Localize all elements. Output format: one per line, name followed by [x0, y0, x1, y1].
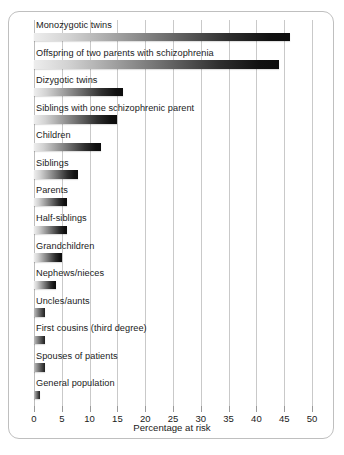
bar	[34, 143, 101, 152]
bar-row: Children	[34, 130, 312, 158]
bar-row: Dizygotic twins	[34, 75, 312, 103]
bar	[34, 170, 78, 179]
bar-category-label: Nephews/nieces	[36, 268, 104, 278]
bar-category-label: Half-siblings	[36, 213, 87, 223]
bar-row: Siblings	[34, 158, 312, 186]
bar-row: Uncles/aunts	[34, 296, 312, 324]
x-tick-mark	[90, 406, 91, 412]
x-tick-mark	[229, 406, 230, 412]
bar-row: General population	[34, 378, 312, 406]
bar-category-label: Parents	[36, 185, 68, 195]
gridline-50	[312, 20, 313, 406]
bar	[34, 363, 45, 372]
bar-category-label: Offspring of two parents with schizophre…	[36, 48, 214, 58]
bar	[34, 60, 279, 69]
bar-category-label: Uncles/aunts	[36, 296, 90, 306]
plot-area: Monozygotic twinsOffspring of two parent…	[34, 20, 312, 406]
bar	[34, 336, 45, 345]
bar-category-label: Dizygotic twins	[36, 75, 98, 85]
x-tick-mark	[145, 406, 146, 412]
bar-category-label: Spouses of patients	[36, 351, 118, 361]
bar-category-label: Grandchildren	[36, 241, 94, 251]
x-tick-mark	[312, 406, 313, 412]
bar	[34, 391, 40, 400]
bar	[34, 198, 67, 207]
bar-category-label: First cousins (third degree)	[36, 323, 147, 333]
bar-row: Spouses of patients	[34, 351, 312, 379]
x-tick-mark	[284, 406, 285, 412]
x-tick-mark	[173, 406, 174, 412]
x-tick-mark	[34, 406, 35, 412]
bar	[34, 253, 62, 262]
bar-row: Parents	[34, 185, 312, 213]
bar-row: Siblings with one schizophrenic parent	[34, 103, 312, 131]
x-tick-mark	[201, 406, 202, 412]
bar-category-label: Monozygotic twins	[36, 20, 112, 30]
bar-series: Monozygotic twinsOffspring of two parent…	[34, 20, 312, 406]
bar	[34, 33, 290, 42]
bar-row: First cousins (third degree)	[34, 323, 312, 351]
bar-row: Grandchildren	[34, 241, 312, 269]
bar-row: Half-siblings	[34, 213, 312, 241]
bar-category-label: Siblings	[36, 158, 69, 168]
bar	[34, 88, 123, 97]
x-tick-mark	[117, 406, 118, 412]
bar	[34, 226, 67, 235]
bar	[34, 308, 45, 317]
bar-row: Nephews/nieces	[34, 268, 312, 296]
x-tick-mark	[62, 406, 63, 412]
bar-row: Monozygotic twins	[34, 20, 312, 48]
bar-row: Offspring of two parents with schizophre…	[34, 48, 312, 76]
x-axis-title: Percentage at risk	[9, 422, 335, 433]
bar	[34, 115, 117, 124]
bar	[34, 281, 56, 290]
chart-frame: Monozygotic twinsOffspring of two parent…	[8, 11, 334, 439]
bar-category-label: General population	[36, 378, 115, 388]
bar-category-label: Siblings with one schizophrenic parent	[36, 103, 194, 113]
x-tick-mark	[256, 406, 257, 412]
bar-category-label: Children	[36, 130, 71, 140]
